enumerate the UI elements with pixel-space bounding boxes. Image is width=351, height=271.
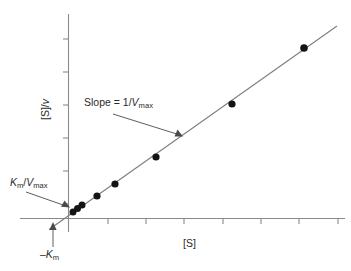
- slope-annotation-subscript: max: [139, 101, 153, 110]
- neg-km-annotation-arrow: [49, 222, 56, 247]
- slope-annotation-variable: V: [132, 96, 139, 108]
- slope-annotation-arrow: [113, 114, 183, 137]
- vmax-subscript: max: [33, 181, 47, 190]
- y-axis-label-slash: /: [39, 104, 51, 107]
- data-point: [228, 100, 235, 107]
- hanes-woolf-plot-figure: [S]/v [S] Slope = 1/Vmax Km/Vmax –Km: [0, 0, 351, 271]
- y-axis-label: [S]/v: [40, 78, 51, 99]
- fit-line: [49, 26, 337, 230]
- data-point: [93, 192, 100, 199]
- slope-annotation-prefix: Slope = 1/: [84, 96, 132, 108]
- x-axis-ticks: [108, 219, 338, 225]
- km-vmax-annotation-arrow: [26, 192, 70, 208]
- km-variable: K: [10, 176, 17, 188]
- km-subscript: m: [17, 181, 23, 190]
- data-point: [300, 44, 308, 52]
- neg-km-subscript: m: [53, 253, 59, 262]
- plot-canvas: [0, 0, 351, 271]
- slope-annotation-label: Slope = 1/Vmax: [84, 97, 153, 108]
- km-over-vmax-label: Km/Vmax: [10, 177, 48, 188]
- data-point: [152, 153, 159, 160]
- y-axis-label-velocity: v: [39, 99, 51, 104]
- y-axis-ticks: [63, 39, 69, 204]
- y-axis-label-bracket: [S]: [39, 107, 51, 120]
- neg-km-label: –Km: [40, 249, 59, 260]
- data-point: [111, 180, 118, 187]
- data-point: [79, 202, 86, 209]
- neg-km-variable: K: [46, 248, 53, 260]
- x-axis-label: [S]: [183, 238, 196, 249]
